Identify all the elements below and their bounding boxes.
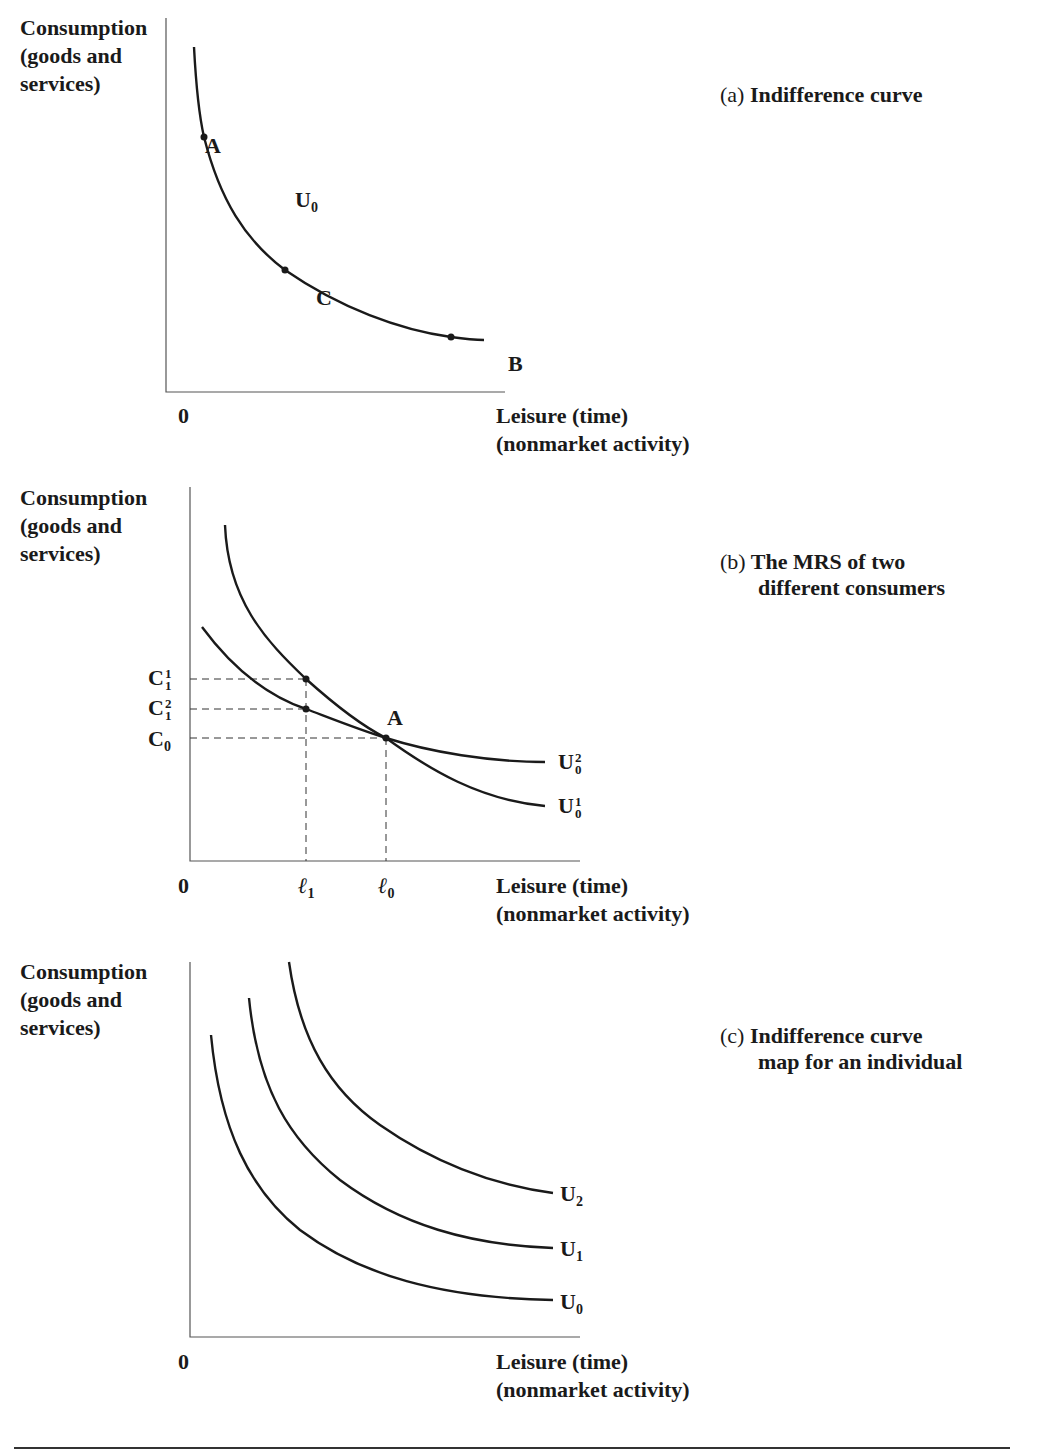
indifference-curve-u2	[289, 962, 553, 1193]
bottom-rule	[14, 1447, 1010, 1449]
indifference-curve-u0-2	[202, 627, 545, 762]
indifference-curve-u0-1	[225, 525, 545, 806]
point-l1-c1-1	[303, 676, 310, 683]
point-c	[282, 267, 289, 274]
indifference-curve-u0	[211, 1035, 553, 1300]
point-a	[383, 735, 390, 742]
indifference-curve-u1	[249, 998, 553, 1248]
point-b	[448, 334, 455, 341]
axes-panel-b	[190, 487, 580, 861]
axes-panel-c	[190, 962, 580, 1337]
diagram-graphics	[0, 0, 1039, 1453]
indifference-curve-u0	[194, 47, 484, 340]
point-a	[201, 134, 208, 141]
point-l1-c1-2	[303, 706, 310, 713]
